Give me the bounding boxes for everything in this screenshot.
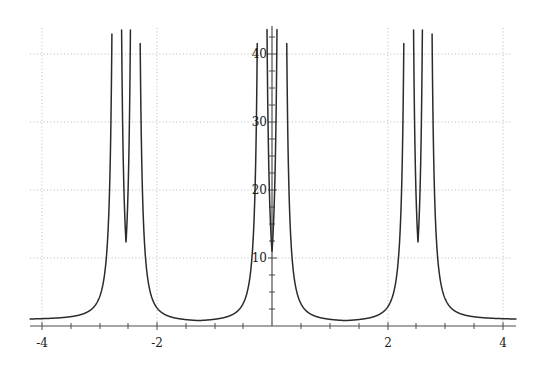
x-tick-label-4: 4 [499, 336, 507, 350]
y-tick-label-20: 20 [247, 183, 267, 197]
y-tick-label-10: 10 [247, 251, 267, 265]
chart-figure: -4 -2 2 4 10 20 30 40 [0, 0, 533, 370]
x-tick-label--2: -2 [151, 336, 163, 350]
curve-branch [140, 44, 257, 321]
curve-branch [122, 30, 131, 243]
x-tick-label-2: 2 [384, 336, 392, 350]
curve-branch [414, 30, 423, 243]
y-tick-label-30: 30 [247, 115, 267, 129]
y-tick-label-40: 40 [247, 47, 267, 61]
curve-branch [287, 44, 404, 321]
data-curve [30, 30, 516, 321]
x-tick-label--4: -4 [36, 336, 48, 350]
